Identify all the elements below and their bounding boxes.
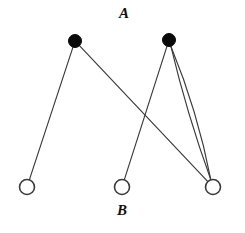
- graph-node-filled: [163, 34, 176, 47]
- graph-node-open: [20, 180, 35, 195]
- node-layer: [20, 34, 221, 195]
- graph-label-a: A: [118, 5, 129, 21]
- graph-diagram: AB: [0, 0, 245, 233]
- graph-label-b: B: [116, 202, 127, 218]
- graph-edge: [29, 47, 73, 180]
- graph-node-filled: [69, 35, 82, 48]
- graph-node-open: [115, 180, 130, 195]
- graph-edge: [171, 46, 211, 180]
- edge-layer: [29, 46, 211, 182]
- graph-edge: [124, 46, 167, 180]
- graph-canvas: AB: [0, 0, 245, 233]
- graph-edge: [171, 46, 211, 180]
- graph-node-open: [206, 180, 221, 195]
